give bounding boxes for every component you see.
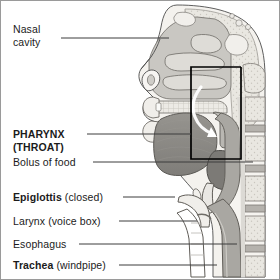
- label-pharynx-line2: (THROAT): [13, 141, 65, 154]
- label-nasal-cavity: Nasal cavity: [13, 23, 40, 48]
- label-nasal-cavity-line1: Nasal: [13, 23, 40, 36]
- label-pharynx-line1: PHARYNX: [13, 128, 65, 141]
- label-trachea-bold: Trachea: [13, 259, 53, 271]
- label-larynx-text: Larynx (voice box): [13, 215, 101, 227]
- label-epiglottis-bold: Epiglottis: [13, 191, 62, 203]
- anatomy-figure-panel: Nasal cavity PHARYNX (THROAT) Bolus of f…: [0, 0, 280, 280]
- label-trachea-normal: (windpipe): [53, 259, 105, 271]
- label-nasal-cavity-line2: cavity: [13, 36, 40, 49]
- label-pharynx-throat: PHARYNX (THROAT): [13, 128, 65, 153]
- label-epiglottis: Epiglottis (closed): [13, 191, 103, 204]
- label-larynx: Larynx (voice box): [13, 215, 101, 228]
- label-bolus-of-food-text: Bolus of food: [13, 156, 76, 168]
- label-epiglottis-normal: (closed): [62, 191, 103, 203]
- label-bolus-of-food: Bolus of food: [13, 156, 76, 169]
- label-trachea: Trachea (windpipe): [13, 259, 106, 272]
- label-esophagus-text: Esophagus: [13, 238, 66, 250]
- label-esophagus: Esophagus: [13, 238, 66, 251]
